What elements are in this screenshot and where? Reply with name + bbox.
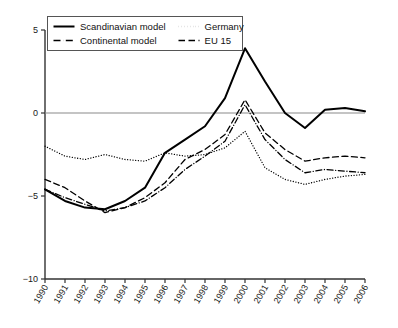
legend-item-label: Continental model	[80, 35, 157, 46]
axis-labels-layer: 50−5−10199019911992199319941995199619971…	[23, 25, 371, 305]
legend-item-scandinavian-model: Scandinavian model	[53, 21, 166, 32]
legend-swatch-solid	[53, 22, 75, 31]
x-axis-tick-label: 2005	[332, 283, 351, 305]
chart-legend: Scandinavian modelGermanyContinental mod…	[47, 16, 243, 51]
x-axis-tick-label: 1995	[132, 283, 151, 305]
chart-container: 50−5−10199019911992199319941995199619971…	[0, 0, 398, 328]
x-axis-tick-label: 2002	[272, 283, 291, 305]
legend-swatch-dotted	[178, 22, 200, 31]
y-axis-tick-label: −5	[28, 191, 38, 201]
legend-item-germany: Germany	[178, 21, 244, 32]
legend-item-continental-model: Continental model	[53, 35, 166, 46]
series-line	[45, 48, 365, 209]
axes-layer	[41, 30, 365, 283]
x-axis-tick-label: 2000	[232, 283, 251, 305]
y-axis-tick-label: 0	[33, 108, 38, 118]
series-line	[45, 131, 365, 184]
x-axis-tick-label: 1990	[32, 283, 51, 305]
x-axis-tick-label: 2006	[352, 283, 371, 305]
x-axis-tick-label: 1992	[72, 283, 91, 305]
legend-item-eu-15: EU 15	[178, 35, 244, 46]
x-axis-tick-label: 2004	[312, 283, 331, 305]
x-axis-tick-label: 2001	[252, 283, 271, 305]
legend-item-label: EU 15	[205, 35, 231, 46]
series-layer	[45, 48, 365, 212]
y-axis-tick-label: 5	[33, 25, 38, 35]
x-axis-tick-label: 1999	[212, 283, 231, 305]
legend-swatch-dashed	[178, 36, 200, 45]
legend-item-label: Scandinavian model	[80, 21, 166, 32]
x-axis-tick-label: 1994	[112, 283, 131, 305]
x-axis-tick-label: 1998	[192, 283, 211, 305]
x-axis-tick-label: 2003	[292, 283, 311, 305]
x-axis-tick-label: 1997	[172, 283, 191, 305]
x-axis-tick-label: 1996	[152, 283, 171, 305]
x-axis-tick-label: 1993	[92, 283, 111, 305]
y-axis-tick-label: −10	[23, 274, 38, 284]
x-axis-tick-label: 1991	[52, 283, 71, 305]
legend-swatch-dashdot	[53, 36, 75, 45]
legend-item-label: Germany	[205, 21, 244, 32]
